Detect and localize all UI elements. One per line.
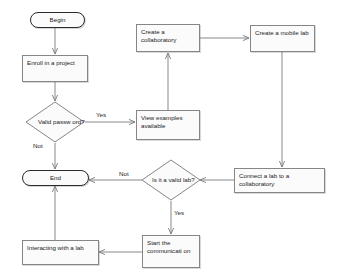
node-enroll-in-a-project[interactable]: Enroll in a project bbox=[22, 55, 88, 82]
node-create-collaboratory-label: Create a collaboratory bbox=[141, 28, 176, 43]
node-valid-password[interactable]: Valid passw ord? bbox=[25, 101, 85, 143]
node-begin-label: Begin bbox=[50, 16, 66, 24]
node-interacting-label: Interacting with a lab bbox=[27, 244, 84, 251]
node-create-a-mobile-lab[interactable]: Create a mobile lab bbox=[250, 25, 315, 52]
flowchart-canvas: Begin Enroll in a project Valid passw or… bbox=[0, 0, 342, 277]
node-interacting-with-a-lab[interactable]: Interacting with a lab bbox=[22, 240, 99, 265]
node-end-label: End bbox=[50, 174, 61, 182]
edge-label-lab-yes: Yes bbox=[174, 209, 184, 216]
edge-label-password-not: Not bbox=[33, 142, 43, 149]
edge-label-lab-not: Not bbox=[119, 170, 129, 177]
node-create-a-collaboratory[interactable]: Create a collaboratory bbox=[136, 24, 200, 52]
node-start-communication-label: Start the communicati on bbox=[147, 239, 190, 254]
node-create-mobile-lab-label: Create a mobile lab bbox=[255, 29, 309, 36]
node-valid-password-label: Valid passw ord? bbox=[38, 118, 85, 126]
node-is-it-a-valid-lab[interactable]: Is it a valid lab? bbox=[141, 159, 201, 201]
node-begin[interactable]: Begin bbox=[30, 12, 85, 28]
node-end[interactable]: End bbox=[22, 170, 89, 186]
node-view-examples-available[interactable]: View examples available bbox=[136, 110, 200, 140]
node-view-examples-label: View examples available bbox=[141, 114, 183, 129]
node-connect-a-lab-to-a-collaboratory[interactable]: Connect a lab to a collaboratory bbox=[234, 168, 325, 193]
edge-label-password-yes: Yes bbox=[96, 111, 106, 118]
node-connect-lab-label: Connect a lab to a collaboratory bbox=[239, 172, 289, 187]
node-start-the-communication[interactable]: Start the communicati on bbox=[142, 235, 200, 268]
node-enroll-label: Enroll in a project bbox=[27, 59, 75, 66]
node-valid-lab-label: Is it a valid lab? bbox=[152, 176, 195, 184]
